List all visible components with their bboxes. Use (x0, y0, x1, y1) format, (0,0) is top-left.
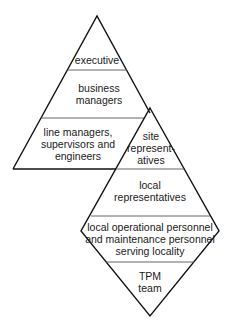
label-site-reps-line1: site (143, 130, 160, 142)
label-executive: executive (75, 54, 120, 66)
label-local-reps-line1: local (139, 179, 161, 191)
hierarchy-diagram: executive business managers line manager… (0, 0, 229, 324)
label-local-op-line1: local operational personnel (87, 221, 213, 233)
label-line-managers-line2: supervisors and (41, 138, 115, 150)
label-local-op-line3: serving locality (116, 245, 186, 257)
level-executive: executive (75, 54, 120, 66)
label-tpm-line1: TPM (139, 270, 161, 282)
label-site-reps-line2: represent- (127, 142, 175, 154)
level-business-managers: business managers (76, 82, 123, 106)
level-local-representatives: local representatives (114, 179, 186, 203)
label-tpm-line2: team (138, 282, 162, 294)
label-local-reps-line2: representatives (114, 191, 186, 203)
level-line-managers: line managers, supervisors and engineers (41, 126, 115, 162)
label-local-op-line2: and maintenance personnel (85, 233, 215, 245)
label-line-managers-line3: engineers (55, 150, 101, 162)
level-tpm-team: TPM team (138, 270, 162, 294)
level-local-operational: local operational personnel and maintena… (85, 221, 215, 257)
label-business-managers-line1: business (78, 82, 119, 94)
label-site-reps-line3: atives (137, 154, 164, 166)
label-business-managers-line2: managers (76, 94, 123, 106)
label-line-managers-line1: line managers, (44, 126, 113, 138)
